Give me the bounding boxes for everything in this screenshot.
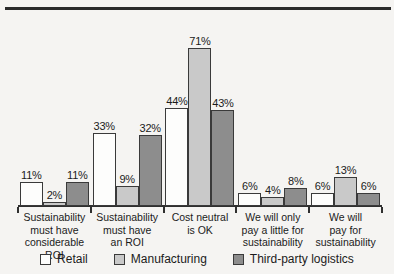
bar-value-label: 71% — [189, 35, 210, 47]
bar-rect[interactable] — [66, 182, 89, 206]
bar-rect[interactable] — [211, 110, 234, 206]
category-label-line: must have — [19, 224, 90, 237]
bar-value-label: 44% — [166, 95, 187, 107]
bar-value-label: 33% — [93, 120, 114, 132]
bar-item[interactable]: 6% — [238, 14, 261, 206]
bar-value-label: 11% — [21, 169, 42, 181]
chart-legend: RetailManufacturingThird-party logistics — [0, 253, 394, 266]
bar-rect[interactable] — [334, 177, 357, 206]
bar-rect[interactable] — [238, 193, 261, 206]
legend-item[interactable]: Third-party logistics — [233, 253, 354, 266]
bar-rect[interactable] — [93, 133, 116, 206]
bar-value-label: 13% — [335, 164, 356, 176]
bar-rect[interactable] — [20, 182, 43, 206]
bar-value-label: 4% — [265, 184, 281, 196]
bar-value-label: 6% — [315, 180, 331, 192]
bar-item[interactable]: 44% — [165, 14, 188, 206]
legend-label: Third-party logistics — [250, 253, 354, 266]
category-label-line: Sustainability — [19, 211, 90, 224]
bar-group: 44%71%43% — [164, 14, 237, 206]
bar-item[interactable]: 6% — [311, 14, 334, 206]
bar-value-label: 11% — [67, 169, 88, 181]
bar-rect[interactable] — [357, 193, 380, 206]
legend-label: Manufacturing — [131, 253, 207, 266]
legend-swatch-icon — [40, 254, 51, 265]
bar-rect[interactable] — [139, 135, 162, 206]
legend-label: Retail — [57, 253, 88, 266]
category-label-line: pay for — [310, 224, 381, 237]
category-label-line: sustainability — [237, 236, 308, 249]
bar-item[interactable]: 8% — [284, 14, 307, 206]
bar-rect[interactable] — [261, 197, 284, 206]
bar-item[interactable]: 9% — [116, 14, 139, 206]
legend-swatch-icon — [233, 254, 244, 265]
bar-rect[interactable] — [311, 193, 334, 206]
page-top-rule — [5, 7, 391, 10]
bar-group: 11%2%11% — [18, 14, 91, 206]
bar-item[interactable]: 6% — [357, 14, 380, 206]
bar-groups: 11%2%11%33%9%32%44%71%43%6%4%8%6%13%6% — [18, 14, 382, 206]
category-label-line: Sustainability — [92, 211, 163, 224]
bar-item[interactable]: 71% — [188, 14, 211, 206]
bar-value-label: 8% — [288, 175, 304, 187]
bar-value-label: 43% — [212, 97, 233, 109]
category-label-line: Cost neutral — [165, 211, 236, 224]
chart-page: 11%2%11%33%9%32%44%71%43%6%4%8%6%13%6% S… — [0, 0, 394, 274]
bar-item[interactable]: 43% — [211, 14, 234, 206]
bar-rect[interactable] — [284, 188, 307, 206]
legend-item[interactable]: Retail — [40, 253, 88, 266]
bar-value-label: 6% — [242, 180, 258, 192]
bar-item[interactable]: 2% — [43, 14, 66, 206]
bar-value-label: 32% — [139, 122, 160, 134]
bar-group: 6%4%8% — [236, 14, 309, 206]
bar-item[interactable]: 11% — [66, 14, 89, 206]
bar-item[interactable]: 11% — [20, 14, 43, 206]
bar-item[interactable]: 33% — [93, 14, 116, 206]
category-label-line: We will — [310, 211, 381, 224]
bar-item[interactable]: 4% — [261, 14, 284, 206]
bar-value-label: 9% — [119, 173, 135, 185]
bar-rect[interactable] — [43, 202, 66, 206]
bar-rect[interactable] — [116, 186, 139, 206]
bar-value-label: 6% — [361, 180, 377, 192]
bar-rect[interactable] — [165, 108, 188, 206]
category-label-line: We will only — [237, 211, 308, 224]
category-label-line: pay a little for — [237, 224, 308, 237]
category-label-line: an ROI — [92, 236, 163, 249]
category-label-line: must have — [92, 224, 163, 237]
bar-group: 33%9%32% — [91, 14, 164, 206]
bar-item[interactable]: 13% — [334, 14, 357, 206]
category-label-line: is OK — [165, 224, 236, 237]
legend-swatch-icon — [114, 254, 125, 265]
category-label-line: sustainability — [310, 236, 381, 249]
legend-item[interactable]: Manufacturing — [114, 253, 207, 266]
bar-item[interactable]: 32% — [139, 14, 162, 206]
bar-rect[interactable] — [188, 48, 211, 206]
bar-value-label: 2% — [47, 189, 63, 201]
bar-group: 6%13%6% — [309, 14, 382, 206]
